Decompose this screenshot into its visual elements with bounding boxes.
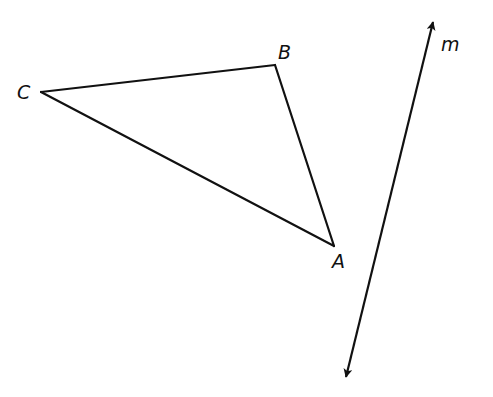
vertex-label-c: C	[17, 81, 31, 103]
side-cb	[41, 65, 275, 92]
line-m	[346, 22, 433, 377]
side-ca	[41, 92, 334, 246]
triangle-abc	[41, 65, 334, 246]
vertex-label-b: B	[278, 41, 291, 63]
vertex-label-a: A	[330, 250, 345, 272]
geometry-diagram: A B C m	[0, 0, 493, 397]
line-label-m: m	[441, 33, 460, 55]
